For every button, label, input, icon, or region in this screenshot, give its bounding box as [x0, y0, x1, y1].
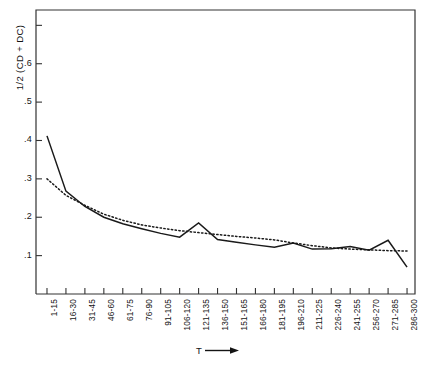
- x-axis-tick-labels: 1-1516-3031-4546-6061-7576-9091-105106-1…: [0, 0, 432, 368]
- x-tick-label: 226-240: [334, 299, 343, 359]
- x-tick-label: 256-270: [372, 299, 381, 359]
- x-tick-label: 241-255: [353, 299, 362, 359]
- x-axis-title: T: [196, 345, 202, 356]
- x-tick-label: 1-15: [50, 299, 59, 359]
- x-tick-label: 196-210: [297, 299, 306, 359]
- x-tick-label: 76-90: [145, 299, 154, 359]
- x-tick-label: 91-105: [164, 299, 173, 359]
- x-tick-label: 61-75: [126, 299, 135, 359]
- x-tick-label: 166-180: [259, 299, 268, 359]
- right-arrow-icon: [205, 346, 239, 355]
- x-tick-label: 211-225: [315, 299, 324, 359]
- chart-figure: 1/2 (CD + DC) .1.2.3.4.5.6 1-1516-3031-4…: [0, 0, 432, 368]
- x-tick-label: 106-120: [183, 299, 192, 359]
- x-tick-label: 16-30: [69, 299, 78, 359]
- x-tick-label: 271-285: [391, 299, 400, 359]
- x-tick-label: 181-195: [278, 299, 287, 359]
- x-tick-label: 286-300: [410, 299, 419, 359]
- x-axis-title-group: T: [196, 345, 239, 356]
- x-tick-label: 46-60: [107, 299, 116, 359]
- x-tick-label: 151-165: [240, 299, 249, 359]
- x-tick-label: 31-45: [88, 299, 97, 359]
